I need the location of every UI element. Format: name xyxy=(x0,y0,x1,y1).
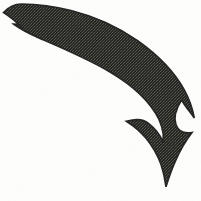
image-canvas: Curved arrow pointing down xyxy=(0,0,201,201)
arrow-dither-texture xyxy=(4,4,195,187)
curved-arrow-graphic xyxy=(0,0,201,201)
